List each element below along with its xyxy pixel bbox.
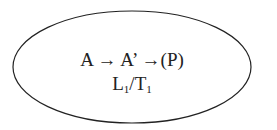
t-subscript: 1 [146, 83, 152, 95]
arrow-right-icon: → [142, 49, 161, 70]
species-a: A [80, 49, 93, 70]
species-a-prime: A’ [120, 49, 137, 70]
t-symbol: T [135, 73, 147, 94]
reaction-pathway-label: A → A’ →(P) [0, 49, 264, 71]
ratio-label: L1/T1 [0, 73, 264, 95]
l-symbol: L [112, 73, 124, 94]
product-p: (P) [161, 49, 184, 70]
arrow-right-icon: → [98, 49, 117, 70]
